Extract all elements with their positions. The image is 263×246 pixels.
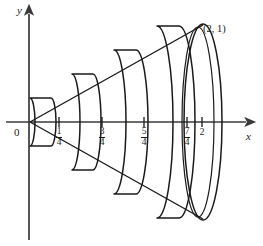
x-tick-label-3-4: 3 4 bbox=[95, 127, 109, 147]
x-tick-label-2: 2 bbox=[196, 128, 208, 138]
cone-shells-figure: y x 0 1 4 3 4 5 4 7 4 2 (2, 1) bbox=[0, 0, 263, 246]
figure-canvas bbox=[0, 0, 263, 246]
fraction-1-4: 1 4 bbox=[56, 127, 63, 147]
y-axis-label: y bbox=[17, 5, 22, 16]
x-axis-label: x bbox=[246, 131, 251, 142]
x-tick-label-1-4: 1 4 bbox=[52, 127, 66, 147]
cone-upper-edge bbox=[30, 25, 203, 122]
x-tick-label-7-4: 7 4 bbox=[180, 127, 194, 147]
fraction-3-4: 3 4 bbox=[99, 127, 106, 147]
cone-vertex-point-label: (2, 1) bbox=[203, 24, 226, 35]
fraction-5-4: 5 4 bbox=[141, 127, 148, 147]
origin-label: 0 bbox=[14, 127, 20, 138]
x-tick-label-5-4: 5 4 bbox=[137, 127, 151, 147]
fraction-7-4: 7 4 bbox=[184, 127, 191, 147]
